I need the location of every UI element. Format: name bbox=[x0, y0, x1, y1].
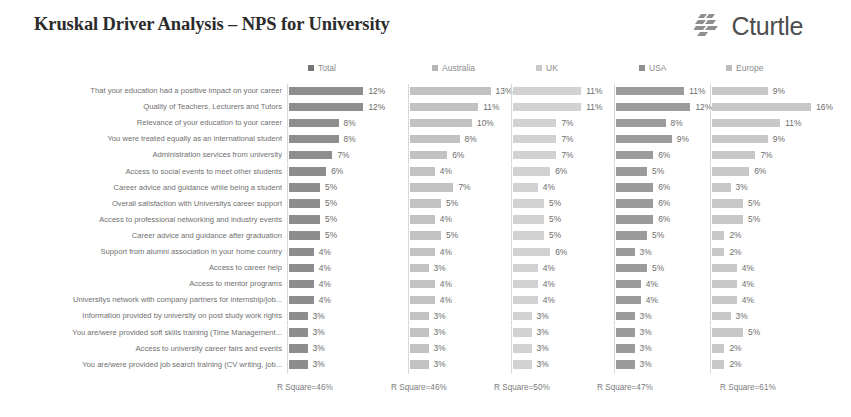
bar-cell-australia[interactable]: 5% bbox=[410, 198, 471, 211]
bar-cell-europe[interactable]: 5% bbox=[712, 214, 773, 227]
bar-cell-usa[interactable]: 3% bbox=[616, 246, 665, 259]
bar-europe[interactable] bbox=[712, 280, 737, 289]
bar-uk[interactable] bbox=[513, 135, 556, 144]
bar-europe[interactable] bbox=[712, 103, 811, 112]
bar-cell-europe[interactable]: 4% bbox=[712, 262, 767, 275]
bar-usa[interactable] bbox=[616, 103, 690, 112]
bar-usa[interactable] bbox=[616, 248, 635, 257]
bar-cell-australia[interactable]: 8% bbox=[410, 133, 490, 146]
bar-cell-total[interactable]: 5% bbox=[289, 182, 350, 195]
bar-total[interactable] bbox=[289, 167, 326, 176]
bar-europe[interactable] bbox=[712, 119, 780, 128]
bar-usa[interactable] bbox=[616, 312, 635, 321]
bar-cell-usa[interactable]: 6% bbox=[616, 214, 683, 227]
bar-cell-australia[interactable]: 3% bbox=[410, 343, 459, 356]
bar-usa[interactable] bbox=[616, 231, 647, 240]
bar-europe[interactable] bbox=[712, 328, 743, 337]
bar-cell-uk[interactable]: 4% bbox=[513, 294, 568, 307]
bar-australia[interactable] bbox=[410, 151, 447, 160]
bar-cell-europe[interactable]: 11% bbox=[712, 117, 810, 130]
bar-cell-total[interactable]: 12% bbox=[289, 85, 393, 98]
bar-cell-europe[interactable]: 16% bbox=[712, 101, 841, 114]
bar-australia[interactable] bbox=[410, 328, 429, 337]
bar-cell-australia[interactable]: 11% bbox=[410, 101, 508, 114]
bar-total[interactable] bbox=[289, 199, 320, 208]
bar-total[interactable] bbox=[289, 264, 314, 273]
bar-usa[interactable] bbox=[616, 264, 647, 273]
legend-item-usa[interactable]: USA bbox=[639, 63, 666, 73]
bar-cell-australia[interactable]: 4% bbox=[410, 166, 465, 179]
bar-uk[interactable] bbox=[513, 167, 550, 176]
bar-cell-usa[interactable]: 9% bbox=[616, 133, 702, 146]
bar-uk[interactable] bbox=[513, 344, 532, 353]
bar-australia[interactable] bbox=[410, 183, 453, 192]
bar-cell-usa[interactable]: 5% bbox=[616, 262, 677, 275]
bar-cell-usa[interactable]: 3% bbox=[616, 343, 665, 356]
bar-australia[interactable] bbox=[410, 87, 491, 96]
bar-cell-europe[interactable]: 3% bbox=[712, 182, 761, 195]
bar-usa[interactable] bbox=[616, 119, 666, 128]
bar-cell-usa[interactable]: 5% bbox=[616, 230, 677, 243]
bar-cell-total[interactable]: 3% bbox=[289, 343, 338, 356]
bar-cell-total[interactable]: 5% bbox=[289, 214, 350, 227]
bar-cell-europe[interactable]: 5% bbox=[712, 198, 773, 211]
bar-cell-total[interactable]: 5% bbox=[289, 230, 350, 243]
bar-usa[interactable] bbox=[616, 87, 684, 96]
bar-cell-uk[interactable]: 7% bbox=[513, 117, 586, 130]
bar-europe[interactable] bbox=[712, 296, 737, 305]
bar-total[interactable] bbox=[289, 328, 308, 337]
bar-uk[interactable] bbox=[513, 87, 581, 96]
bar-europe[interactable] bbox=[712, 87, 768, 96]
bar-australia[interactable] bbox=[410, 215, 435, 224]
bar-cell-total[interactable]: 7% bbox=[289, 149, 362, 162]
bar-cell-total[interactable]: 5% bbox=[289, 198, 350, 211]
bar-cell-usa[interactable]: 3% bbox=[616, 310, 665, 323]
bar-cell-usa[interactable]: 12% bbox=[616, 101, 720, 114]
bar-uk[interactable] bbox=[513, 199, 544, 208]
bar-cell-uk[interactable]: 3% bbox=[513, 343, 562, 356]
bar-usa[interactable] bbox=[616, 183, 653, 192]
bar-cell-europe[interactable]: 9% bbox=[712, 133, 798, 146]
bar-total[interactable] bbox=[289, 103, 363, 112]
bar-total[interactable] bbox=[289, 87, 363, 96]
bar-cell-australia[interactable]: 3% bbox=[410, 262, 459, 275]
bar-uk[interactable] bbox=[513, 103, 581, 112]
bar-cell-australia[interactable]: 4% bbox=[410, 246, 465, 259]
bar-uk[interactable] bbox=[513, 328, 532, 337]
bar-usa[interactable] bbox=[616, 360, 635, 369]
bar-cell-europe[interactable]: 4% bbox=[712, 294, 767, 307]
bar-uk[interactable] bbox=[513, 119, 556, 128]
bar-australia[interactable] bbox=[410, 280, 435, 289]
bar-usa[interactable] bbox=[616, 167, 647, 176]
bar-cell-europe[interactable]: 2% bbox=[712, 246, 754, 259]
bar-usa[interactable] bbox=[616, 151, 653, 160]
bar-australia[interactable] bbox=[410, 231, 441, 240]
bar-cell-total[interactable]: 4% bbox=[289, 246, 344, 259]
bar-cell-total[interactable]: 8% bbox=[289, 133, 369, 146]
bar-total[interactable] bbox=[289, 183, 320, 192]
bar-cell-australia[interactable]: 3% bbox=[410, 327, 459, 340]
bar-cell-uk[interactable]: 5% bbox=[513, 198, 574, 211]
bar-uk[interactable] bbox=[513, 183, 538, 192]
bar-australia[interactable] bbox=[410, 248, 435, 257]
bar-cell-uk[interactable]: 6% bbox=[513, 166, 580, 179]
bar-cell-uk[interactable]: 11% bbox=[513, 85, 611, 98]
bar-cell-uk[interactable]: 3% bbox=[513, 310, 562, 323]
bar-europe[interactable] bbox=[712, 344, 724, 353]
bar-cell-europe[interactable]: 5% bbox=[712, 327, 773, 340]
bar-cell-usa[interactable]: 3% bbox=[616, 359, 665, 372]
bar-europe[interactable] bbox=[712, 151, 755, 160]
legend-item-uk[interactable]: UK bbox=[536, 63, 558, 73]
bar-cell-uk[interactable]: 5% bbox=[513, 214, 574, 227]
bar-cell-australia[interactable]: 4% bbox=[410, 294, 465, 307]
bar-cell-uk[interactable]: 11% bbox=[513, 101, 611, 114]
bar-usa[interactable] bbox=[616, 135, 672, 144]
bar-cell-australia[interactable]: 3% bbox=[410, 359, 459, 372]
bar-australia[interactable] bbox=[410, 360, 429, 369]
bar-uk[interactable] bbox=[513, 231, 544, 240]
bar-cell-australia[interactable]: 13% bbox=[410, 85, 521, 98]
bar-cell-total[interactable]: 4% bbox=[289, 262, 344, 275]
bar-cell-australia[interactable]: 6% bbox=[410, 149, 477, 162]
bar-cell-australia[interactable]: 4% bbox=[410, 214, 465, 227]
legend-item-europe[interactable]: Europe bbox=[726, 63, 763, 73]
